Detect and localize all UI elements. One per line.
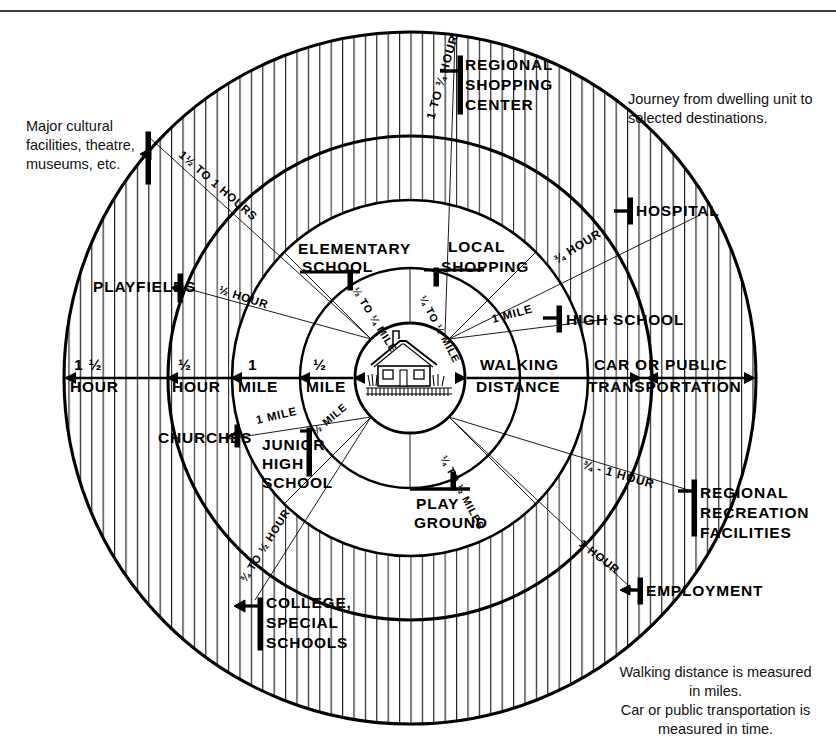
axis-right-1-top: CAR OR PUBLIC (594, 356, 728, 373)
label-hospital: HOSPITAL (636, 202, 720, 219)
diagram-canvas: 1 ½ HOUR ½ HOUR 1 MILE ½ MILE WALKING DI… (0, 0, 836, 747)
footer-line-4: measured in time. (658, 721, 773, 737)
axis-left-0-top: 1 ½ (74, 356, 102, 373)
label-regional-shopping-l3: CENTER (465, 96, 534, 113)
footer-line-3: Car or public transportation is (621, 702, 810, 718)
axis-right-0-top: WALKING (480, 356, 559, 373)
axis-left-1-top: ½ (178, 356, 192, 373)
label-junior-high-l3: SCHOOL (262, 474, 333, 491)
note-title: Journey from dwelling unit toselected de… (628, 90, 813, 128)
label-elementary-l2: SCHOOL (302, 258, 373, 275)
axis-left-2-top: 1 (248, 356, 257, 373)
label-college-l1: COLLEGE, (266, 594, 352, 611)
note-footer: Walking distance is measuredin miles.Car… (608, 663, 823, 739)
label-high-school: HIGH SCHOOL (566, 311, 684, 328)
axis-right-1-bottom: TRANSPORTATION (588, 378, 742, 395)
label-regional-rec-l3: FACILITIES (700, 524, 792, 541)
label-playfields: PLAYFIELDS (93, 278, 196, 295)
label-playground-l1: PLAY (416, 495, 459, 512)
label-local-shopping-l2: SHOPPING (441, 258, 529, 275)
marker-regional-recreation (692, 480, 697, 536)
axis-left-0-bottom: HOUR (70, 378, 119, 395)
label-churches: CHURCHES (158, 429, 252, 446)
axis-left-3-top: ½ (313, 356, 327, 373)
axis-left-3-bottom: MILE (306, 378, 346, 395)
label-college-l2: SPECIAL (266, 614, 339, 631)
axis-right-0-bottom: DISTANCE (476, 378, 560, 395)
footer-line-1: Walking distance is measured (619, 664, 811, 680)
axis-left-2-bottom: MILE (238, 378, 278, 395)
label-regional-shopping-l2: SHOPPING (465, 76, 553, 93)
label-regional-shopping-l1: REGIONAL (465, 56, 553, 73)
label-college-l3: SCHOOLS (266, 634, 348, 651)
label-local-shopping-l1: LOCAL (448, 238, 505, 255)
label-employment: EMPLOYMENT (646, 582, 763, 599)
marker-regional-shopping (458, 56, 463, 114)
note-cultural-facilities: Major culturalfacilities, theatre,museum… (26, 117, 135, 174)
label-junior-high-l1: JUNIOR (262, 436, 325, 453)
label-junior-high-l2: HIGH (262, 455, 304, 472)
footer-line-2: in miles. (689, 683, 742, 699)
label-regional-rec-l1: REGIONAL (700, 484, 788, 501)
axis-left-1-bottom: HOUR (172, 378, 221, 395)
label-regional-rec-l2: RECREATION (700, 504, 809, 521)
label-elementary-l1: ELEMENTARY (298, 240, 411, 257)
